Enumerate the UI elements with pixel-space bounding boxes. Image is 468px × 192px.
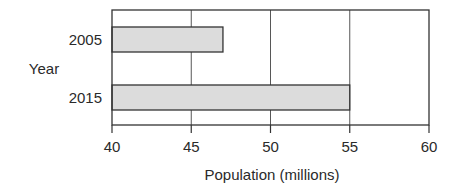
x-axis: 4045505560 — [104, 125, 438, 155]
x-tick-label: 55 — [341, 138, 358, 155]
y-axis: 20052015 — [69, 31, 102, 106]
bar-2015 — [112, 85, 350, 110]
x-tick-label: 40 — [104, 138, 121, 155]
y-category-label: 2015 — [69, 89, 102, 106]
bar-2005 — [112, 27, 223, 52]
y-category-label: 2005 — [69, 31, 102, 48]
x-tick-label: 50 — [262, 138, 279, 155]
x-tick-label: 45 — [183, 138, 200, 155]
bars — [112, 27, 350, 110]
x-tick-label: 60 — [421, 138, 438, 155]
bar-chart: 4045505560 20052015 Population (millions… — [0, 0, 468, 192]
x-axis-title: Population (millions) — [204, 166, 339, 183]
y-axis-title: Year — [29, 60, 59, 77]
